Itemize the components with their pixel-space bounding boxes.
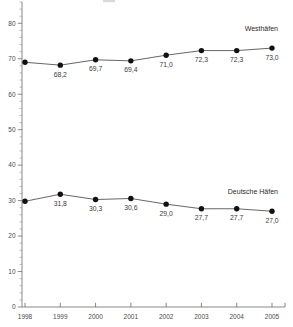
data-value-label: 72,3	[230, 56, 243, 63]
x-axis-label: 2001	[124, 313, 139, 320]
data-point-marker	[269, 209, 274, 214]
data-value-label: 27,7	[230, 214, 243, 221]
data-value-label: 71,0	[160, 61, 173, 68]
data-point-marker	[269, 45, 274, 50]
y-axis-label: 40	[8, 161, 16, 168]
series-name-westhaefen: Westhäfen	[245, 25, 278, 32]
data-value-label: 30,3	[89, 205, 102, 212]
data-value-label: 29,0	[160, 210, 173, 217]
data-point-marker	[22, 60, 27, 65]
y-axis-label: 0	[12, 303, 16, 310]
data-value-label: 69,4	[124, 66, 137, 73]
y-axis-label: 80	[8, 20, 16, 27]
data-point-marker	[93, 57, 98, 62]
series-name-deutsche-haefen: Deutsche Häfen	[228, 188, 278, 195]
y-axis-label: 20	[8, 232, 16, 239]
scan-artifact	[103, 0, 115, 2]
data-point-marker	[58, 192, 63, 197]
chart-canvas: 01020304050607080 1998199920002001200220…	[0, 0, 293, 327]
data-value-label: 68,2	[54, 71, 67, 78]
x-axis-label: 2004	[229, 313, 244, 320]
y-axis-label: 50	[8, 126, 16, 133]
chart-background	[0, 0, 293, 327]
data-value-label: 31,8	[54, 200, 67, 207]
data-value-label: 69,7	[89, 65, 102, 72]
x-axis-label: 1998	[18, 313, 33, 320]
data-value-label: 27,7	[195, 214, 208, 221]
y-axis-label: 60	[8, 91, 16, 98]
data-point-marker	[128, 58, 133, 63]
data-point-marker	[234, 206, 239, 211]
data-point-marker	[58, 62, 63, 67]
x-axis-label: 1999	[53, 313, 68, 320]
data-value-label: 30,6	[124, 204, 137, 211]
x-axis-label: 2003	[194, 313, 209, 320]
y-axis-label: 10	[8, 268, 16, 275]
data-point-marker	[93, 197, 98, 202]
data-point-marker	[199, 206, 204, 211]
data-point-marker	[234, 48, 239, 53]
x-axis-label: 2002	[159, 313, 174, 320]
data-point-marker	[22, 199, 27, 204]
data-point-marker	[163, 52, 168, 57]
data-point-marker	[128, 196, 133, 201]
data-value-label: 72,3	[195, 56, 208, 63]
data-point-marker	[199, 48, 204, 53]
y-axis-label: 70	[8, 55, 16, 62]
y-axis-label: 30	[8, 197, 16, 204]
x-axis-label: 2005	[265, 313, 280, 320]
top-edge-artifact	[103, 0, 115, 2]
data-value-label: 73,0	[265, 54, 278, 61]
x-axis-label: 2000	[88, 313, 103, 320]
data-value-label: 27,0	[265, 217, 278, 224]
line-chart: 01020304050607080 1998199920002001200220…	[0, 0, 293, 327]
data-point-marker	[163, 201, 168, 206]
